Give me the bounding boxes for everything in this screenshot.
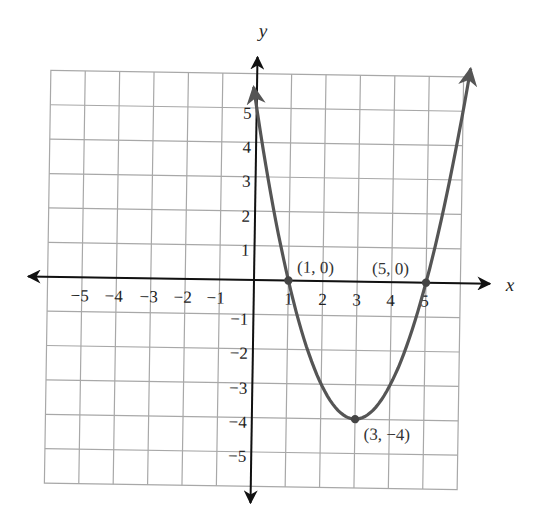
x-tick: 3 (352, 291, 361, 310)
x-tick-labels: −5 −4 −3 −2 −1 1 2 3 4 5 (71, 286, 430, 311)
x-tick: −3 (140, 287, 158, 306)
y-tick: 5 (243, 104, 252, 123)
y-tick: −1 (230, 310, 248, 329)
x-tick: −4 (105, 287, 124, 306)
y-tick: 4 (242, 138, 251, 157)
x-axis (28, 276, 490, 283)
y-tick: −4 (229, 413, 248, 432)
x-intercept-point-5 (422, 278, 431, 287)
y-tick: −2 (230, 344, 248, 363)
y-tick: −3 (229, 379, 247, 398)
point-label-1-0: (1, 0) (297, 258, 334, 278)
x-tick: −1 (207, 288, 225, 307)
vertex-point (351, 415, 360, 424)
x-axis-label: x (505, 274, 515, 295)
x-tick: −5 (71, 286, 89, 305)
x-tick: 2 (318, 290, 327, 309)
x-tick: 4 (386, 291, 395, 310)
parabola-chart: y x −5 −4 −3 −2 −1 1 2 3 4 5 5 4 3 2 1 −… (0, 0, 533, 521)
y-axis-label: y (257, 20, 268, 41)
x-tick: −2 (174, 288, 192, 307)
y-tick: 3 (242, 172, 251, 191)
point-label-5-0: (5, 0) (372, 259, 409, 279)
x-intercept-point-1 (284, 276, 293, 285)
point-label-vertex: (3, −4) (363, 425, 410, 445)
y-tick-labels: 5 4 3 2 1 −1 −2 −3 −4 −5 (228, 104, 252, 466)
y-tick: 1 (241, 241, 250, 260)
y-tick: −5 (228, 447, 246, 466)
y-tick: 2 (241, 207, 250, 226)
